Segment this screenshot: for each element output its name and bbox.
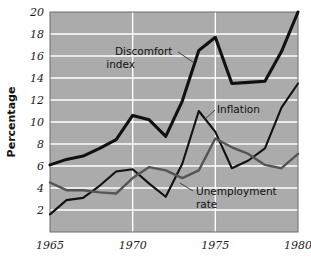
y-tick-label: 4 bbox=[36, 182, 44, 195]
x-tick-label: 1975 bbox=[201, 239, 229, 252]
y-tick-label: 20 bbox=[29, 6, 44, 19]
y-tick-label: 10 bbox=[30, 116, 44, 129]
line-chart: 2468101214161820 1965197019751980 Percen… bbox=[0, 0, 311, 266]
discomfort-index-label-line1: Discomfort bbox=[115, 45, 172, 57]
inflation-label: Inflation bbox=[217, 103, 260, 115]
y-tick-label: 8 bbox=[37, 138, 44, 151]
x-tick-label: 1965 bbox=[36, 239, 64, 252]
y-tick-label: 2 bbox=[36, 204, 44, 217]
unemployment-rate-label-line1: Unemployment bbox=[196, 185, 277, 197]
x-tick-label: 1970 bbox=[119, 239, 147, 252]
y-tick-label: 6 bbox=[37, 160, 44, 173]
y-tick-label: 18 bbox=[30, 28, 44, 41]
unemployment-rate-label-line2: rate bbox=[196, 198, 217, 210]
discomfort-index-label-line2: index bbox=[106, 58, 135, 70]
x-axis-ticks: 1965197019751980 bbox=[36, 239, 311, 252]
x-tick-label: 1980 bbox=[284, 239, 311, 252]
y-tick-label: 14 bbox=[30, 72, 44, 85]
y-axis-ticks: 2468101214161820 bbox=[29, 6, 44, 217]
y-axis-title: Percentage bbox=[5, 87, 18, 158]
chart-container: 2468101214161820 1965197019751980 Percen… bbox=[0, 0, 311, 266]
y-tick-label: 16 bbox=[30, 50, 44, 63]
y-tick-label: 12 bbox=[30, 94, 44, 107]
